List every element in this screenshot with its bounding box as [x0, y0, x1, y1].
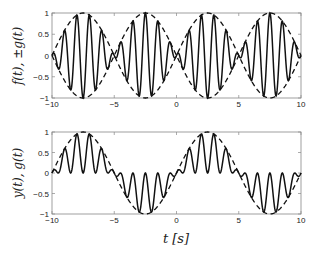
x-tick-label: 0: [174, 100, 179, 109]
figure: −10−5051010.50−0.5−1 −10−5051010.50−0.5−…: [0, 0, 319, 254]
top-y-axis-label: f(t), ±g(t): [11, 27, 25, 86]
x-tick-label: 10: [297, 216, 306, 225]
y-tick-label: −0.5: [33, 73, 49, 82]
y-tick-label: −1: [40, 210, 50, 219]
x-tick-label: 5: [237, 100, 242, 109]
x-axis-label: t [s]: [163, 231, 190, 246]
x-tick-label: 5: [237, 216, 242, 225]
y-tick-label: −0.5: [33, 190, 49, 199]
y-tick-label: 1: [45, 128, 50, 137]
x-tick-label: −5: [110, 100, 120, 109]
y-tick-label: −1: [40, 94, 50, 103]
y-tick-label: 0: [45, 169, 50, 178]
top-plot: −10−5051010.50−0.5−1: [33, 9, 306, 109]
y-tick-label: 0.5: [38, 30, 50, 39]
x-tick-label: −5: [110, 216, 120, 225]
y-tick-label: 0.5: [38, 149, 50, 158]
x-tick-label: 10: [297, 100, 306, 109]
y-tick-label: 0: [45, 52, 50, 61]
bottom-y-axis-label: y(t), g(t): [11, 147, 25, 199]
bottom-plot: −10−5051010.50−0.5−1: [33, 128, 306, 225]
x-tick-label: 0: [174, 216, 179, 225]
y-tick-label: 1: [45, 9, 50, 18]
